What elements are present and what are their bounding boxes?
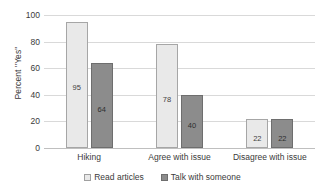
x-category-label: Hiking (44, 152, 134, 163)
y-tick-label: 40 (14, 91, 40, 100)
bar-value-label: 78 (157, 95, 177, 104)
legend-item[interactable]: Talk with someone (161, 172, 241, 182)
bar: 78 (156, 44, 178, 148)
plot-area: 956478402222 (44, 15, 315, 148)
bar: 22 (271, 119, 293, 148)
legend-item[interactable]: Read articles (84, 172, 144, 182)
legend-label: Read articles (94, 172, 144, 182)
y-tick-label: 20 (14, 117, 40, 126)
x-axis-category-labels: HikingAgree with issueDisagree with issu… (44, 152, 315, 164)
chart-legend: Read articlesTalk with someone (0, 172, 325, 182)
bar-value-label: 40 (182, 121, 202, 130)
x-category-label: Agree with issue (134, 152, 224, 163)
bar-value-label: 95 (67, 83, 87, 92)
y-tick-label: 60 (14, 64, 40, 73)
bar-chart: Percent "Yes" 020406080100 956478402222 … (0, 0, 325, 188)
legend-swatch-icon (161, 174, 168, 181)
bar: 64 (91, 63, 113, 148)
y-tick-label: 100 (14, 11, 40, 20)
x-category-label: Disagree with issue (225, 152, 315, 163)
bar-value-label: 64 (92, 105, 112, 114)
bar: 40 (181, 95, 203, 148)
bar: 95 (66, 22, 88, 148)
y-tick-label: 80 (14, 38, 40, 47)
y-tick-label: 0 (14, 144, 40, 153)
legend-swatch-icon (84, 174, 91, 181)
bar-value-label: 22 (247, 134, 267, 143)
bar: 22 (246, 119, 268, 148)
x-axis-line (44, 148, 315, 149)
bar-value-label: 22 (272, 134, 292, 143)
gridline (44, 15, 315, 16)
y-axis-tick-labels: 020406080100 (10, 15, 40, 148)
legend-label: Talk with someone (171, 172, 241, 182)
